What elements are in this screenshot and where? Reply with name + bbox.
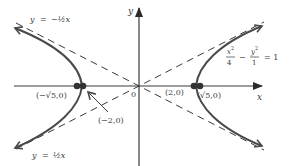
svg-text:y: y [29, 15, 35, 24]
y-axis-label: y [127, 6, 134, 16]
label-pos-sqrt5: (√5,0) [197, 91, 221, 100]
hyperbola-left-upper [15, 28, 82, 86]
equation-label: x 2 4 − y 2 1 = 1 [226, 45, 278, 67]
svg-text:−: − [239, 53, 246, 62]
asymptote-label-bottom: y = ½x [31, 151, 66, 160]
origin-label: 0 [131, 90, 136, 99]
point-pos-2 [191, 83, 198, 90]
x-axis-label: x [257, 92, 262, 102]
hyperbola-diagram: y x 0 y = −½x y = ½x (−√5,0) (−2,0) (2,0… [0, 0, 298, 166]
svg-text:= 1: = 1 [264, 53, 278, 62]
point-neg-sqrt5 [74, 83, 81, 90]
svg-text:½x: ½x [53, 151, 66, 160]
hyperbola-right-upper [196, 26, 262, 86]
svg-text:=: = [40, 15, 47, 24]
svg-text:−½x: −½x [51, 15, 70, 24]
label-pos-2: (2,0) [165, 88, 184, 97]
svg-text:1: 1 [252, 59, 256, 67]
svg-text:=: = [42, 151, 49, 160]
svg-text:2: 2 [231, 45, 234, 51]
label-neg-sqrt5: (−√5,0) [36, 91, 67, 100]
svg-text:4: 4 [227, 59, 232, 67]
pointer-neg-2-arrow [88, 92, 108, 112]
svg-text:2: 2 [255, 45, 258, 51]
point-neg-2 [80, 83, 87, 90]
asymptote-label-top: y = −½x [29, 15, 70, 24]
point-pos-sqrt5 [197, 83, 204, 90]
label-neg-2: (−2,0) [98, 116, 124, 125]
svg-text:y: y [31, 151, 37, 160]
